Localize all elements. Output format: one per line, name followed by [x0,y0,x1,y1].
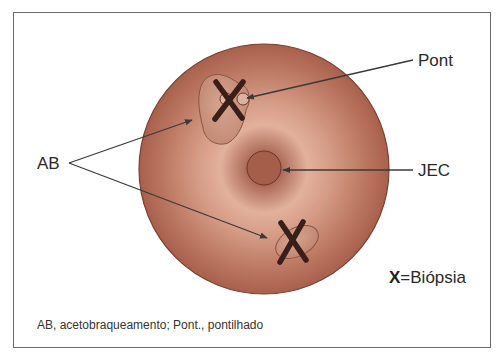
legend: X=Biópsia [389,268,466,288]
label-ab: AB [37,155,60,172]
legend-symbol: X [389,268,400,287]
label-pont: Pont [418,52,453,69]
legend-text: =Biópsia [400,268,466,287]
figure-caption: AB, acetobraqueamento; Pont., pontilhado [37,318,263,332]
label-jec: JEC [418,162,450,179]
jec-os-circle [247,151,281,185]
